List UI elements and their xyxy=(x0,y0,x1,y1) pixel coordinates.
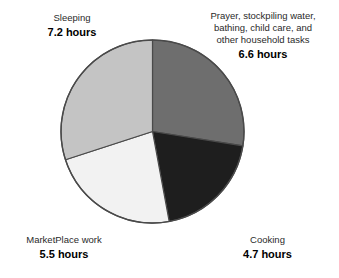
callout-sleeping: Sleeping 7.2 hours xyxy=(12,12,132,39)
callout-marketplace-work-label: MarketPlace work xyxy=(2,234,126,246)
callout-household-tasks-label-line3: other household tasks xyxy=(189,34,337,46)
callout-cooking: Cooking 4.7 hours xyxy=(205,234,330,261)
callout-cooking-label: Cooking xyxy=(205,234,330,246)
pie-graphic xyxy=(60,39,245,224)
pie-slices-group xyxy=(61,40,244,223)
callout-household-tasks: Prayer, stockpiling water, bathing, chil… xyxy=(189,10,337,62)
callout-household-tasks-label-line1: Prayer, stockpiling water, xyxy=(189,10,337,22)
clipped-top-text-row xyxy=(0,0,339,2)
callout-sleeping-label: Sleeping xyxy=(12,12,132,24)
callout-sleeping-value: 7.2 hours xyxy=(12,26,132,39)
callout-household-tasks-label-line2: bathing, child care, and xyxy=(189,22,337,34)
callout-marketplace-work-value: 5.5 hours xyxy=(2,248,126,261)
callout-marketplace-work: MarketPlace work 5.5 hours xyxy=(2,234,126,261)
pie-svg xyxy=(60,39,245,224)
callout-household-tasks-value: 6.6 hours xyxy=(189,48,337,61)
pie-chart-figure: Sleeping 7.2 hours Prayer, stockpiling w… xyxy=(0,0,339,278)
callout-cooking-value: 4.7 hours xyxy=(205,248,330,261)
